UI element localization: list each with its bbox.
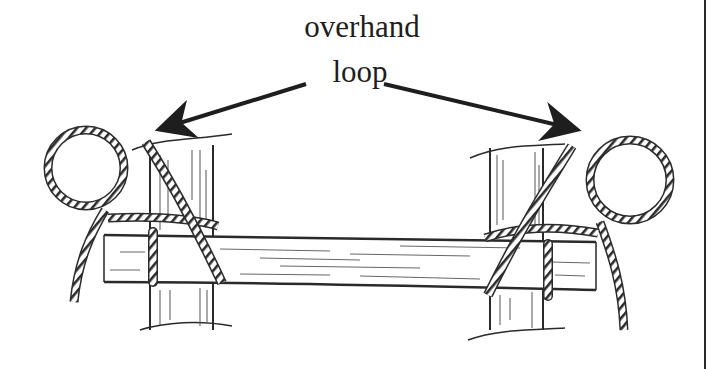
knot-diagram: overhand loop <box>0 0 715 369</box>
crossbar <box>104 235 596 290</box>
label-loop: loop <box>332 56 387 87</box>
left-post <box>132 134 232 330</box>
arrows <box>170 84 566 127</box>
label-overhand: overhand <box>304 11 419 42</box>
right-arrow <box>384 84 566 127</box>
right-overhand-loop <box>485 140 670 330</box>
left-arrow <box>170 84 306 126</box>
frame-border-right <box>704 0 706 369</box>
